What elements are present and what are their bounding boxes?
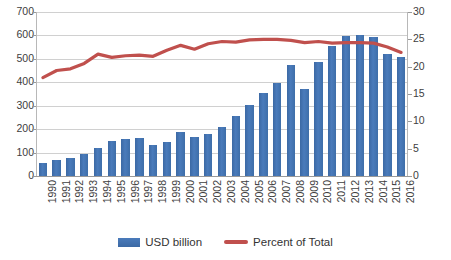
bar-series-usd-billion xyxy=(36,12,408,176)
left-y-tick-mark xyxy=(32,176,36,177)
x-tick-label: 1998 xyxy=(157,180,168,203)
bar xyxy=(383,54,392,176)
bar xyxy=(259,93,268,176)
x-tick-label: 1993 xyxy=(88,180,99,203)
bar xyxy=(356,35,365,176)
x-tick-label: 1997 xyxy=(143,180,154,203)
bar xyxy=(397,57,406,176)
bar xyxy=(218,127,227,176)
bar xyxy=(190,137,199,176)
x-tick-label: 2000 xyxy=(185,180,196,203)
x-tick-label: 1999 xyxy=(171,180,182,203)
bar xyxy=(39,163,48,176)
x-tick-label: 1991 xyxy=(61,180,72,203)
right-y-tick-label: 10 xyxy=(413,115,425,126)
bar xyxy=(163,142,172,176)
legend-item-percent-of-total[interactable]: Percent of Total xyxy=(224,236,333,248)
bar xyxy=(342,36,351,176)
legend-bar-swatch-icon xyxy=(118,238,140,247)
x-tick-label: 2014 xyxy=(378,180,389,203)
legend-item-usd-billion[interactable]: USD billion xyxy=(118,236,202,248)
bar xyxy=(287,65,296,176)
x-tick-label: 2001 xyxy=(198,180,209,203)
bar xyxy=(66,158,75,176)
x-tick-label: 1995 xyxy=(116,180,127,203)
bar xyxy=(94,148,103,176)
right-y-tick-label: 15 xyxy=(413,88,425,99)
x-tick-label: 2002 xyxy=(212,180,223,203)
x-tick-label: 2009 xyxy=(309,180,320,203)
x-tick-label: 2007 xyxy=(281,180,292,203)
x-tick-label: 2016 xyxy=(405,180,416,203)
bar xyxy=(314,62,323,176)
bar xyxy=(300,89,309,176)
right-y-tick-mark xyxy=(408,121,412,122)
x-tick-label: 2015 xyxy=(391,180,402,203)
x-tick-label: 2013 xyxy=(364,180,375,203)
legend-line-swatch-icon xyxy=(224,240,248,244)
bar xyxy=(245,105,254,176)
right-y-tick-mark xyxy=(408,67,412,68)
chart-legend: USD billion Percent of Total xyxy=(0,236,451,248)
x-axis-line xyxy=(36,176,408,177)
x-tick-label: 2003 xyxy=(226,180,237,203)
legend-label-usd-billion: USD billion xyxy=(145,236,202,248)
chart-container: 0100200300400500600700 051015202530 1990… xyxy=(0,0,451,260)
bar xyxy=(176,132,185,176)
x-tick-label: 1994 xyxy=(102,180,113,203)
right-y-tick-label: 0 xyxy=(413,170,419,181)
x-tick-label: 1992 xyxy=(74,180,85,203)
legend-label-percent-of-total: Percent of Total xyxy=(253,236,333,248)
x-tick-label: 2006 xyxy=(267,180,278,203)
bar xyxy=(121,139,130,176)
bar xyxy=(273,83,282,176)
right-y-tick-mark xyxy=(408,176,412,177)
x-tick-label: 2012 xyxy=(350,180,361,203)
x-tick-label: 2010 xyxy=(322,180,333,203)
x-tick-label: 1996 xyxy=(130,180,141,203)
x-tick-label: 1990 xyxy=(47,180,58,203)
bar xyxy=(80,154,89,176)
right-y-tick-label: 5 xyxy=(413,143,419,154)
right-y-tick-label: 25 xyxy=(413,33,425,44)
bar xyxy=(328,46,337,176)
x-tick-label: 2008 xyxy=(295,180,306,203)
right-y-tick-label: 30 xyxy=(413,6,425,17)
x-axis-labels: 1990199119921993199419951996199719981999… xyxy=(36,180,408,232)
right-y-tick-mark xyxy=(408,149,412,150)
right-y-tick-label: 20 xyxy=(413,61,425,72)
right-y-tick-mark xyxy=(408,94,412,95)
bar xyxy=(232,116,241,176)
x-tick-label: 2005 xyxy=(254,180,265,203)
bar xyxy=(108,141,117,176)
bar xyxy=(135,138,144,176)
x-tick-label: 2004 xyxy=(240,180,251,203)
bar xyxy=(369,37,378,176)
bar xyxy=(52,160,61,176)
right-y-tick-mark xyxy=(408,39,412,40)
right-y-tick-mark xyxy=(408,12,412,13)
bar xyxy=(149,145,158,176)
bar xyxy=(204,134,213,176)
x-tick-label: 2011 xyxy=(336,180,347,203)
